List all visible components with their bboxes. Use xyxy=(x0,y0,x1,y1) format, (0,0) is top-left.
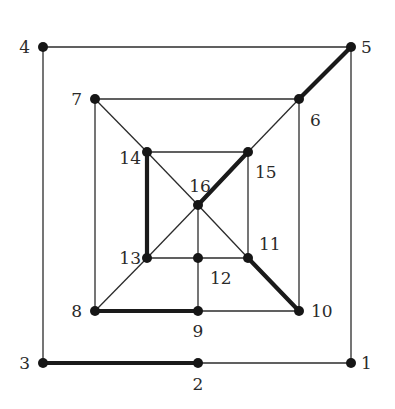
graph-diagram: 12345678910111213141516 xyxy=(0,0,395,409)
node-15 xyxy=(243,147,253,157)
node-3 xyxy=(38,358,48,368)
node-label-13: 13 xyxy=(119,248,141,268)
node-label-4: 4 xyxy=(19,37,30,57)
node-label-16: 16 xyxy=(189,176,211,196)
node-label-5: 5 xyxy=(361,37,372,57)
node-labels: 12345678910111213141516 xyxy=(19,37,372,394)
node-label-3: 3 xyxy=(19,353,30,373)
node-label-7: 7 xyxy=(71,89,82,109)
node-6 xyxy=(294,94,304,104)
node-13 xyxy=(142,253,152,263)
node-label-9: 9 xyxy=(193,321,204,341)
node-10 xyxy=(294,306,304,316)
matching-edge-5-6 xyxy=(299,47,351,99)
node-label-8: 8 xyxy=(71,301,82,321)
node-label-11: 11 xyxy=(259,234,281,254)
node-label-1: 1 xyxy=(361,353,372,373)
matching-edge-10-11 xyxy=(248,258,299,311)
node-11 xyxy=(243,253,253,263)
edge-7-14 xyxy=(95,99,147,152)
edge-13-16 xyxy=(147,205,198,258)
node-2 xyxy=(193,358,203,368)
node-label-12: 12 xyxy=(210,268,232,288)
edge-16-11 xyxy=(198,205,248,258)
node-14 xyxy=(142,147,152,157)
node-12 xyxy=(193,253,203,263)
node-label-14: 14 xyxy=(119,148,141,168)
node-7 xyxy=(90,94,100,104)
node-8 xyxy=(90,306,100,316)
node-1 xyxy=(346,358,356,368)
node-label-2: 2 xyxy=(193,374,204,394)
node-label-10: 10 xyxy=(311,301,333,321)
node-label-6: 6 xyxy=(310,110,321,130)
node-4 xyxy=(38,42,48,52)
node-5 xyxy=(346,42,356,52)
node-9 xyxy=(193,306,203,316)
node-16 xyxy=(193,200,203,210)
edge-6-15 xyxy=(248,99,299,152)
node-label-15: 15 xyxy=(255,162,277,182)
